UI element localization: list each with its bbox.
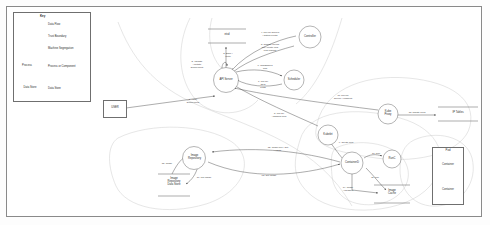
legend-item-machine-segregation-label: Machine Segregation bbox=[48, 47, 73, 50]
node-kube-proxy-shape bbox=[378, 104, 398, 124]
legend-item-process-label: Process or Component bbox=[48, 65, 76, 68]
legend-item-data-store-label: Data Store bbox=[48, 87, 61, 90]
node-user[interactable] bbox=[103, 100, 127, 118]
node-image-cache-label: Image Cache bbox=[374, 189, 410, 195]
node-etcd-label: etcd bbox=[208, 33, 246, 36]
diagram-canvas: Key Data Flow Trust Boundary Machine Seg… bbox=[0, 0, 490, 225]
node-image-repo-store-label: Image Repository Data Store bbox=[156, 177, 192, 187]
node-api-server-shape bbox=[214, 68, 239, 93]
legend-title: Key bbox=[40, 14, 45, 18]
node-containerd-shape bbox=[341, 152, 363, 174]
node-scheduler-shape bbox=[284, 70, 304, 90]
node-ip-tables-label: IP Tables bbox=[438, 111, 478, 114]
legend-item-trust-boundary-label: Trust Boundary bbox=[48, 35, 66, 38]
node-controller-shape bbox=[299, 26, 321, 48]
node-runc-shape bbox=[383, 150, 401, 168]
node-pod[interactable] bbox=[432, 147, 464, 205]
node-kubelet-shape bbox=[318, 125, 338, 145]
node-image-repository-shape bbox=[183, 147, 206, 170]
legend-item-data-flow-label: Data Flow bbox=[48, 23, 60, 26]
legend-data-store-glyph-label: Data Store bbox=[14, 86, 46, 89]
